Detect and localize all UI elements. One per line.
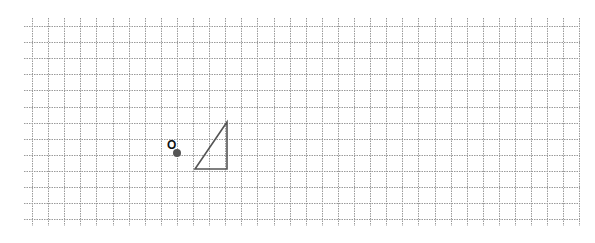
right-triangle: [195, 122, 227, 169]
point-o-label: O: [167, 138, 176, 152]
grid-lines: [24, 18, 580, 226]
grid-diagram: O: [0, 0, 595, 243]
